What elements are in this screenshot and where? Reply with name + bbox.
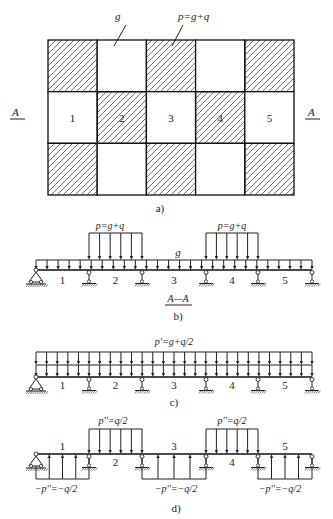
label-g-beam: g bbox=[175, 246, 181, 258]
beam-antisymmetric-load: 12345 bbox=[26, 429, 320, 479]
span-number: 2 bbox=[113, 456, 119, 468]
caption-d: d) bbox=[171, 502, 181, 515]
span-number: 3 bbox=[171, 274, 177, 286]
span-number: 4 bbox=[229, 274, 235, 286]
span-number: 4 bbox=[229, 379, 235, 391]
panel-dead-load bbox=[196, 40, 245, 92]
label-p-span4: p=g+q bbox=[217, 220, 247, 231]
panel-number: 5 bbox=[267, 112, 273, 124]
roller-support bbox=[82, 271, 97, 287]
section-marker-left: A bbox=[11, 106, 19, 118]
panel-live-load bbox=[146, 143, 195, 195]
label-up-span1: −p''=−q/2 bbox=[35, 483, 77, 494]
continuous-slab-loading-diagram: 12345 g p=g+q A A a) 12345 p=g+q p=g+q g… bbox=[0, 0, 333, 519]
caption-c: c) bbox=[170, 396, 179, 409]
span-number: 5 bbox=[282, 379, 288, 391]
span-number: 1 bbox=[60, 379, 66, 391]
roller-support bbox=[305, 378, 320, 394]
roller-support bbox=[199, 378, 214, 394]
panel-dead-load bbox=[97, 143, 146, 195]
roller-support bbox=[251, 271, 266, 287]
label-p-prime: p'=g+q/2 bbox=[154, 336, 193, 347]
caption-b: b) bbox=[173, 310, 183, 323]
roller-support bbox=[82, 455, 97, 471]
beam-pattern-load-diagram: 12345 bbox=[26, 233, 320, 287]
pin-support bbox=[26, 375, 48, 394]
span-number: 4 bbox=[229, 456, 235, 468]
panel-live-load bbox=[48, 143, 97, 195]
pin-support bbox=[26, 452, 48, 471]
roller-support bbox=[135, 271, 150, 287]
label-down-span2: p''=q/2 bbox=[98, 415, 128, 426]
panel-live-load bbox=[245, 143, 294, 195]
span-number: 5 bbox=[282, 274, 288, 286]
roller-support bbox=[82, 378, 97, 394]
span-number: 1 bbox=[60, 274, 66, 286]
label-up-span5: −p''=−q/2 bbox=[259, 483, 301, 494]
panel-number: 1 bbox=[70, 112, 76, 124]
label-p-span2: p=g+q bbox=[95, 220, 125, 231]
span-number: 2 bbox=[113, 274, 119, 286]
roller-support bbox=[251, 378, 266, 394]
panel-live-load bbox=[245, 40, 294, 92]
section-title-AA: A—A bbox=[166, 293, 189, 304]
roller-support bbox=[199, 271, 214, 287]
panel-number: 4 bbox=[217, 112, 223, 124]
roller-support bbox=[135, 378, 150, 394]
span-number: 2 bbox=[113, 379, 119, 391]
slab-plan-grid: 12345 bbox=[48, 40, 294, 195]
panel-number: 3 bbox=[168, 112, 174, 124]
panel-live-load bbox=[146, 40, 195, 92]
panel-number: 2 bbox=[119, 112, 125, 124]
label-p-plan: p=g+q bbox=[177, 10, 210, 22]
label-g-plan: g bbox=[115, 10, 121, 22]
label-up-span3: −p''=−q/2 bbox=[155, 483, 197, 494]
roller-support bbox=[251, 455, 266, 471]
panel-live-load bbox=[48, 40, 97, 92]
roller-support bbox=[135, 455, 150, 471]
roller-support bbox=[305, 455, 320, 471]
roller-support bbox=[305, 271, 320, 287]
span-number: 3 bbox=[171, 379, 177, 391]
beam-equivalent-uniform-load: 12345 bbox=[26, 352, 320, 394]
caption-a: a) bbox=[156, 202, 165, 215]
panel-dead-load bbox=[97, 40, 146, 92]
span-number: 1 bbox=[60, 440, 66, 452]
span-number: 5 bbox=[282, 440, 288, 452]
panel-dead-load bbox=[196, 143, 245, 195]
label-down-span4: p''=q/2 bbox=[217, 415, 247, 426]
pin-support bbox=[26, 268, 48, 287]
roller-support bbox=[199, 455, 214, 471]
section-marker-right: A bbox=[307, 106, 315, 118]
span-number: 3 bbox=[171, 440, 177, 452]
